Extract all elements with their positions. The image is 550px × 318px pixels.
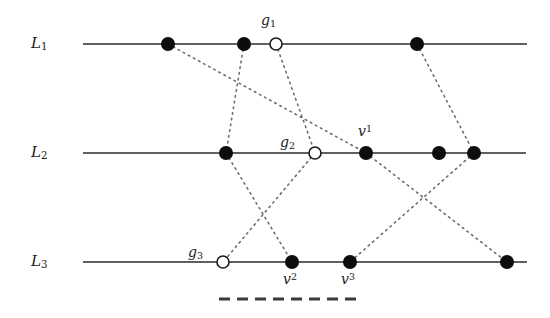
node-g2-open[interactable] <box>309 147 321 159</box>
connector-v1-to-n3c <box>366 153 507 262</box>
node-n2c-filled[interactable] <box>467 146 481 160</box>
node-g3-open[interactable] <box>217 256 229 268</box>
node-label-g1-label: g1 <box>261 13 276 29</box>
node-v1-filled[interactable] <box>359 146 373 160</box>
node-label-g3-label: g3 <box>188 245 203 261</box>
line-label-l2: L2 <box>31 145 47 161</box>
node-n1c-filled[interactable] <box>410 37 424 51</box>
node-label-v2-label: v2 <box>283 272 297 286</box>
figure-canvas: L1L2L3g1g2g3v1v2v3 <box>0 0 550 318</box>
node-n2a-filled[interactable] <box>219 146 233 160</box>
connector-n2c-to-v3 <box>350 153 474 262</box>
node-n2b-filled[interactable] <box>432 146 446 160</box>
line-label-l3: L3 <box>31 254 47 270</box>
node-n1b-filled[interactable] <box>237 37 251 51</box>
node-v2-filled[interactable] <box>285 255 299 269</box>
horizontal-lines-group <box>83 44 527 262</box>
line-label-l1: L1 <box>31 36 47 52</box>
connector-n1a-to-v1 <box>168 44 366 153</box>
node-n1a-filled[interactable] <box>161 37 175 51</box>
connector-n1c-to-n2c <box>417 44 474 153</box>
connector-g2-to-g3 <box>223 153 315 262</box>
node-label-g2-label: g2 <box>280 135 295 151</box>
node-label-v1-label: v1 <box>358 124 372 138</box>
diagram-svg <box>0 0 550 318</box>
node-n3c-filled[interactable] <box>500 255 514 269</box>
node-g1-open[interactable] <box>270 38 282 50</box>
node-label-v3-label: v3 <box>341 272 355 286</box>
connector-n1b-to-n2a <box>226 44 244 153</box>
node-v3-filled[interactable] <box>343 255 357 269</box>
